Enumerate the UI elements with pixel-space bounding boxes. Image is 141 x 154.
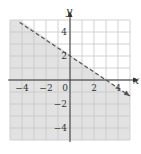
y-tick-label: −4 — [54, 123, 68, 133]
y-axis-label: y — [65, 5, 73, 18]
x-tick-label: 0 — [62, 83, 68, 93]
y-tick-label: 2 — [61, 51, 67, 61]
inequality-graph: −4−202442−2−4 x y — [0, 0, 141, 154]
x-tick-label: 4 — [115, 83, 121, 93]
y-tick-label: 4 — [61, 27, 67, 37]
x-tick-label: −2 — [39, 83, 52, 93]
x-axis-label: x — [133, 74, 140, 87]
y-tick-label: −2 — [54, 99, 67, 109]
x-tick-label: −4 — [15, 83, 29, 93]
x-tick-label: 2 — [91, 83, 97, 93]
